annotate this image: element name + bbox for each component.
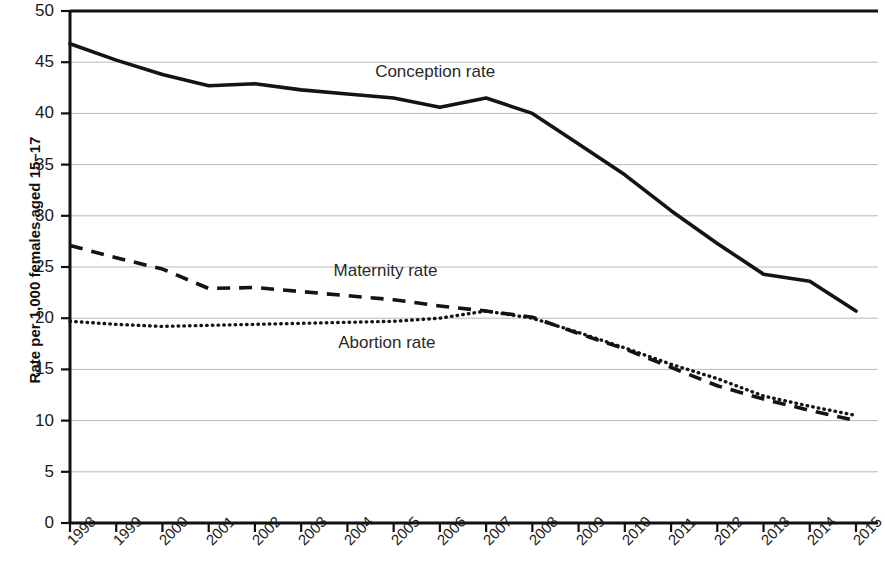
series-line-abortion [70,311,856,415]
series-annotation-label: Maternity rate [334,262,438,279]
y-tick-label: 25 [14,258,54,275]
y-tick-label: 50 [14,2,54,19]
y-tick-label: 30 [14,207,54,224]
y-tick-label: 45 [14,53,54,70]
tickmarks-group [61,11,856,532]
y-tick-label: 20 [14,309,54,326]
y-tick-label: 40 [14,104,54,121]
series-annotation-label: Conception rate [375,63,495,80]
y-tick-label: 15 [14,360,54,377]
series-annotation-label: Abortion rate [338,334,435,351]
y-tick-label: 35 [14,156,54,173]
y-tick-label: 10 [14,412,54,429]
y-tick-label: 5 [14,463,54,480]
series-line-conception [70,44,856,311]
series-line-maternity [70,246,856,421]
y-tick-label: 0 [14,514,54,531]
gridlines-group [70,62,878,472]
